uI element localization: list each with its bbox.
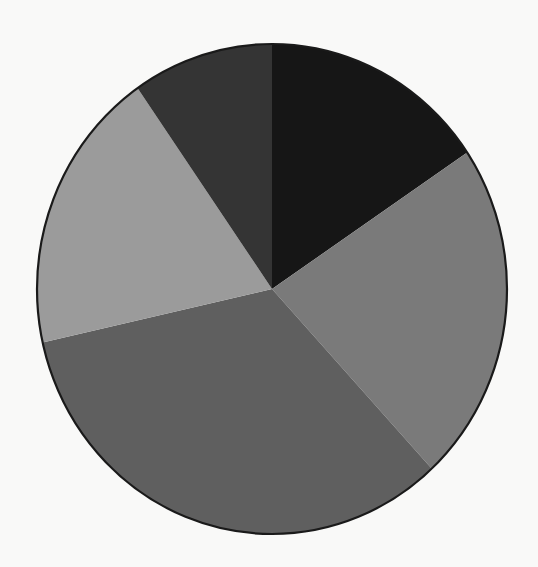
pie-chart <box>0 0 538 567</box>
pie-slices <box>37 44 507 534</box>
pie-chart-canvas <box>0 0 538 567</box>
